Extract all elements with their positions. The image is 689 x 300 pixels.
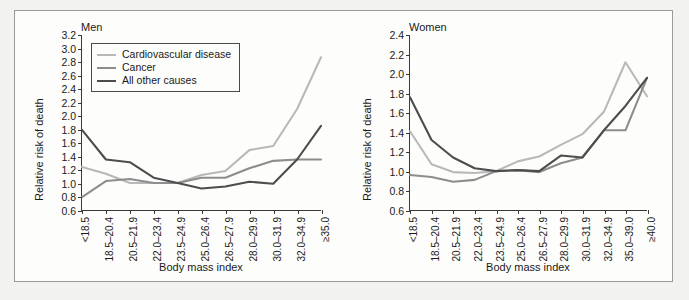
y-axis-tick <box>406 133 410 134</box>
x-axis-tick-label: 25.0–26.4 <box>201 217 211 262</box>
x-axis-tick <box>202 210 203 214</box>
series-line-all-other-causes <box>410 78 647 171</box>
y-axis-tick-label: 0.8 <box>61 192 76 203</box>
y-axis-tick <box>406 55 410 56</box>
y-axis-tick-label: 2.0 <box>389 69 404 80</box>
y-axis-tick <box>78 89 82 90</box>
y-axis-tick-label: 2.8 <box>61 57 76 68</box>
y-axis-tick-label: 1.8 <box>61 125 76 136</box>
x-axis-tick-label: 32.0–34.9 <box>604 217 614 262</box>
y-axis-title-women: Relative risk of death <box>361 98 373 201</box>
y-axis-tick-label: 1.4 <box>389 128 404 139</box>
x-axis-title-men: Body mass index <box>81 261 321 273</box>
y-axis-tick-label: 2.4 <box>61 84 76 95</box>
x-axis-tick-label: ≥40.0 <box>647 217 657 242</box>
legend-swatch-cardiovascular-disease <box>97 54 116 56</box>
y-axis-tick-label: 1.4 <box>61 152 76 163</box>
panel-title-men: Men <box>81 21 102 33</box>
x-axis-tick-label: 35.0–39.0 <box>625 217 635 262</box>
y-axis-tick <box>78 116 82 117</box>
y-axis-tick <box>78 157 82 158</box>
y-axis-tick <box>78 184 82 185</box>
y-axis-tick-label: 0.6 <box>389 206 404 217</box>
chart-panel-men: Men Relative risk of death 3.23.02.82.62… <box>19 11 349 283</box>
y-axis-tick-label: 2.6 <box>61 70 76 81</box>
y-axis-tick-label: 3.2 <box>61 30 76 41</box>
y-axis-tick-label: 1.0 <box>61 179 76 190</box>
y-axis-tick-label: 2.2 <box>389 49 404 60</box>
x-axis-tick-label: 26.5–27.9 <box>539 217 549 262</box>
x-axis-tick <box>82 210 83 214</box>
y-axis-tick <box>406 113 410 114</box>
x-axis-tick-label: 30.0–31.9 <box>273 217 283 262</box>
x-axis-tick-label: 20.5–21.9 <box>129 217 139 262</box>
y-axis-tick <box>78 35 82 36</box>
series-line-cardiovascular-disease <box>410 62 647 173</box>
y-axis-tick-label: 1.6 <box>61 138 76 149</box>
panel-title-women: Women <box>409 21 447 33</box>
y-axis-tick <box>78 143 82 144</box>
x-axis-tick <box>226 210 227 214</box>
x-axis-tick <box>410 210 411 214</box>
x-axis-tick <box>518 210 519 214</box>
chart-legend: Cardiovascular disease Cancer All other … <box>91 43 240 92</box>
y-axis-tick-label: 1.2 <box>61 165 76 176</box>
series-lines-women <box>410 35 647 210</box>
x-axis-tick-label: 23.5–24.9 <box>496 217 506 262</box>
x-axis-tick-label: 28.0–29.9 <box>560 217 570 262</box>
x-axis-title-women: Body mass index <box>409 261 647 273</box>
y-axis-tick <box>78 62 82 63</box>
legend-item: Cardiovascular disease <box>97 48 231 61</box>
y-axis-tick <box>406 35 410 36</box>
y-axis-tick-label: 1.6 <box>389 108 404 119</box>
legend-item: All other causes <box>97 74 231 87</box>
y-axis-tick <box>78 76 82 77</box>
y-axis-tick <box>78 103 82 104</box>
y-axis-tick <box>406 94 410 95</box>
legend-label-cancer: Cancer <box>122 62 156 73</box>
plot-area-women: 2.42.22.01.81.61.41.21.00.80.6<18.518.5–… <box>409 35 647 211</box>
x-axis-tick-label: 26.5–27.9 <box>225 217 235 262</box>
y-axis-tick-label: 0.8 <box>389 186 404 197</box>
legend-label-all-other-causes: All other causes <box>122 75 197 86</box>
x-axis-tick <box>274 210 275 214</box>
x-axis-tick <box>178 210 179 214</box>
x-axis-tick <box>106 210 107 214</box>
x-axis-tick-label: <18.5 <box>81 217 91 242</box>
x-axis-tick <box>561 210 562 214</box>
y-axis-tick <box>406 74 410 75</box>
y-axis-tick-label: 3.0 <box>61 43 76 54</box>
x-axis-tick-label: 23.5–24.9 <box>177 217 187 262</box>
x-axis-tick-label: <18.5 <box>409 217 419 242</box>
x-axis-tick <box>605 210 606 214</box>
x-axis-tick <box>648 210 649 214</box>
x-axis-tick-label: 32.0–34.9 <box>297 217 307 262</box>
y-axis-tick-label: 0.6 <box>61 206 76 217</box>
x-axis-tick-label: 22.0–23.4 <box>474 217 484 262</box>
x-axis-tick <box>432 210 433 214</box>
x-axis-tick <box>497 210 498 214</box>
chart-panel-women: Women Relative risk of death 2.42.22.01.… <box>347 11 672 283</box>
figure-frame: Men Relative risk of death 3.23.02.82.62… <box>14 10 673 282</box>
y-axis-tick-label: 2.0 <box>61 111 76 122</box>
y-axis-tick-label: 2.2 <box>61 97 76 108</box>
y-axis-tick-label: 2.4 <box>389 30 404 41</box>
x-axis-tick <box>298 210 299 214</box>
x-axis-tick <box>322 210 323 214</box>
x-axis-tick-label: 18.5–20.4 <box>105 217 115 262</box>
x-axis-tick <box>540 210 541 214</box>
x-axis-tick-label: 28.0–29.9 <box>249 217 259 262</box>
x-axis-tick-label: 25.0–26.4 <box>517 217 527 262</box>
x-axis-tick-label: 22.0–23.4 <box>153 217 163 262</box>
x-axis-tick <box>130 210 131 214</box>
x-axis-tick <box>583 210 584 214</box>
x-axis-tick <box>250 210 251 214</box>
y-axis-tick <box>78 49 82 50</box>
legend-swatch-all-other-causes <box>97 80 116 82</box>
y-axis-tick <box>78 130 82 131</box>
y-axis-tick <box>406 172 410 173</box>
y-axis-tick <box>78 197 82 198</box>
x-axis-tick-label: 20.5–21.9 <box>452 217 462 262</box>
x-axis-tick-label: ≥35.0 <box>321 217 331 242</box>
x-axis-tick-label: 30.0–31.9 <box>582 217 592 262</box>
